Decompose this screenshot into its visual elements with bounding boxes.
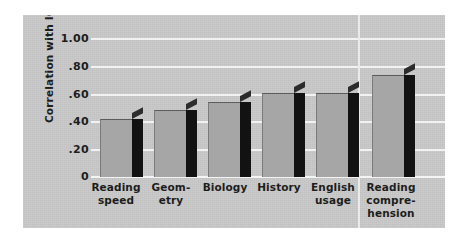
category-label-line: etry [133, 194, 209, 207]
bar-side-face-english-usage [348, 93, 359, 177]
category-label-reading-comprehension: Reading compre- hension [353, 181, 429, 220]
bar-side-face-biology [240, 102, 251, 177]
bar-reading-comprehension[interactable] [372, 75, 404, 177]
bar-reading-speed[interactable] [100, 119, 132, 177]
bar-top-face-history [294, 81, 305, 93]
bar-history[interactable] [262, 93, 294, 177]
chart-panel: 1.00 .80 .60 .40 .20 0 Correlation with … [23, 15, 445, 228]
chart-figure: 1.00 .80 .60 .40 .20 0 Correlation with … [0, 0, 466, 247]
category-label-line: compre- [353, 194, 429, 207]
category-label-line: hension [353, 207, 429, 220]
bar-top-face-reading-comprehension [404, 63, 415, 75]
bar-geometry[interactable] [154, 110, 186, 177]
bar-top-face-biology [240, 90, 251, 102]
bar-side-face-reading-comprehension [404, 75, 415, 177]
bar-biology[interactable] [208, 102, 240, 177]
bar-top-face-english-usage [348, 81, 359, 93]
bar-english-usage[interactable] [316, 93, 348, 177]
bar-side-face-history [294, 93, 305, 177]
bar-top-face-geometry [186, 98, 197, 110]
bar-top-face-reading-speed [132, 107, 143, 119]
bar-side-face-geometry [186, 110, 197, 177]
category-label-line: Reading [353, 181, 429, 194]
bar-side-face-reading-speed [132, 119, 143, 177]
